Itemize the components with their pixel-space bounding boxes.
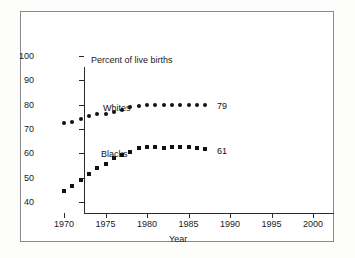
y-tick-label-60: 60 — [12, 149, 34, 158]
end-value-label-blacks: 61 — [217, 146, 227, 156]
x-tick-1985 — [189, 213, 190, 218]
x-tick-1970 — [64, 213, 65, 218]
data-point — [145, 145, 149, 149]
x-tick-1995 — [272, 213, 273, 218]
x-tick-label-1995: 1995 — [252, 220, 292, 229]
data-point — [62, 189, 66, 193]
data-point — [70, 120, 74, 124]
y-tick-40 — [79, 202, 84, 203]
x-tick-label-1990: 1990 — [210, 220, 250, 229]
data-point — [187, 145, 191, 149]
data-point — [162, 146, 166, 150]
y-tick-label-70: 70 — [12, 125, 34, 134]
data-point — [195, 103, 199, 107]
x-tick-2000 — [313, 213, 314, 218]
y-axis-title: Percent of live births — [91, 55, 173, 65]
x-tick-label-1970: 1970 — [44, 220, 84, 229]
data-point — [95, 112, 99, 116]
data-point — [128, 150, 132, 154]
data-point — [203, 103, 207, 107]
y-tick-60 — [79, 153, 84, 154]
data-point — [128, 105, 132, 109]
data-point — [153, 103, 157, 107]
y-tick-label-40: 40 — [12, 198, 34, 207]
x-axis-line — [84, 213, 334, 214]
data-point — [104, 112, 108, 116]
data-point — [112, 110, 116, 114]
x-tick-label-2000: 2000 — [293, 220, 333, 229]
y-tick-label-50: 50 — [12, 174, 34, 183]
data-point — [112, 156, 116, 160]
x-tick-1980 — [147, 213, 148, 218]
y-tick-label-90: 90 — [12, 76, 34, 85]
y-tick-70 — [79, 129, 84, 130]
data-point — [195, 146, 199, 150]
data-point — [120, 153, 124, 157]
data-point — [178, 145, 182, 149]
x-tick-label-1975: 1975 — [86, 220, 126, 229]
data-point — [145, 103, 149, 107]
chart-figure: 405060708090100 197019751980198519901995… — [0, 0, 355, 258]
y-tick-label-80: 80 — [12, 101, 34, 110]
data-point — [87, 172, 91, 176]
x-tick-label-1980: 1980 — [127, 220, 167, 229]
data-point — [95, 166, 99, 170]
data-point — [137, 146, 141, 150]
x-axis-title: Year — [169, 234, 187, 244]
data-point — [87, 114, 91, 118]
y-axis-line — [84, 67, 85, 214]
data-point — [203, 147, 207, 151]
data-point — [79, 178, 83, 182]
y-tick-90 — [79, 80, 84, 81]
data-point — [153, 145, 157, 149]
data-point — [137, 104, 141, 108]
y-tick-100 — [79, 56, 84, 57]
y-tick-label-100: 100 — [12, 52, 34, 61]
chart-border-frame: 405060708090100 197019751980198519901995… — [20, 11, 334, 242]
data-point — [170, 103, 174, 107]
data-point — [62, 121, 66, 125]
data-point — [104, 162, 108, 166]
x-tick-1975 — [106, 213, 107, 218]
end-value-label-whites: 79 — [217, 101, 227, 111]
y-tick-80 — [79, 105, 84, 106]
x-tick-1990 — [230, 213, 231, 218]
data-point — [187, 103, 191, 107]
data-point — [178, 103, 182, 107]
data-point — [70, 184, 74, 188]
x-tick-label-1985: 1985 — [169, 220, 209, 229]
data-point — [79, 117, 83, 121]
data-point — [170, 145, 174, 149]
data-point — [162, 103, 166, 107]
